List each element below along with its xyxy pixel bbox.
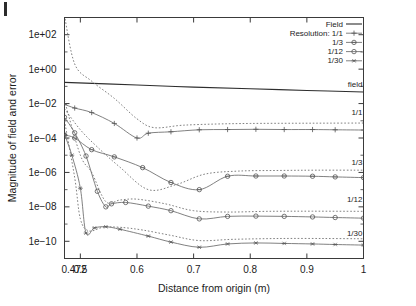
series-annotation: 1/1 <box>351 108 363 117</box>
series-line <box>65 104 364 138</box>
x-tick-label: 1 <box>361 264 367 275</box>
series-1-12-error <box>62 115 365 221</box>
series-line <box>65 121 364 241</box>
series-field <box>65 82 364 92</box>
y-axis-title: Magnitude of field and error <box>6 73 18 202</box>
x-tick-label: 0.5 <box>73 264 87 275</box>
legend-label: 1/12 <box>327 47 343 56</box>
series-line <box>65 134 364 247</box>
series-1-30-error <box>62 133 366 249</box>
series-1-12-bound <box>65 101 364 213</box>
legend-label: 1/3 <box>332 38 344 47</box>
y-tick-label: 1e−04 <box>28 133 57 144</box>
series-annotation: 1/12 <box>347 195 363 204</box>
series-annotation: field <box>348 80 363 89</box>
series-line <box>65 101 364 213</box>
legend-label: 1/30 <box>327 56 343 65</box>
y-tick-label: 1e−02 <box>28 98 57 109</box>
y-axis-tick-labels: 1e+021e+001e−021e−041e−061e−081e−10 <box>28 29 57 247</box>
y-tick-label: 1e+00 <box>28 64 57 75</box>
series-1-3-error <box>62 133 365 192</box>
series-line <box>65 135 364 190</box>
legend-label: Field <box>326 20 343 29</box>
x-tick-label: 0.9 <box>300 264 314 275</box>
y-tick-label: 1e−06 <box>28 167 57 178</box>
y-tick-label: 1e−08 <box>28 201 57 212</box>
x-axis-title: Distance from origin (m) <box>158 282 270 294</box>
y-tick-label: 1e−10 <box>28 236 57 247</box>
y-tick-label: 1e+02 <box>28 29 57 40</box>
chart-canvas: 1e+021e+001e−021e−041e−061e−081e−10 0.47… <box>0 0 416 306</box>
series-1-1-error <box>62 102 366 141</box>
series-annotation: 1/3 <box>351 158 363 167</box>
legend-label: Resolution: 1/1 <box>290 29 344 38</box>
series-line <box>65 82 364 92</box>
x-tick-label: 0.8 <box>243 264 257 275</box>
x-tick-label: 0.6 <box>130 264 144 275</box>
figure-container: 1e+021e+001e−021e−041e−061e−081e−10 0.47… <box>0 0 416 306</box>
x-tick-label: 0.7 <box>187 264 201 275</box>
series-annotation: 1/30 <box>347 229 363 238</box>
series-1-30-bound <box>65 121 364 241</box>
chart-legend: FieldResolution: 1/11/31/121/30 <box>282 18 363 66</box>
x-axis-tick-labels: 0.4720.50.60.70.80.91 <box>62 264 367 275</box>
